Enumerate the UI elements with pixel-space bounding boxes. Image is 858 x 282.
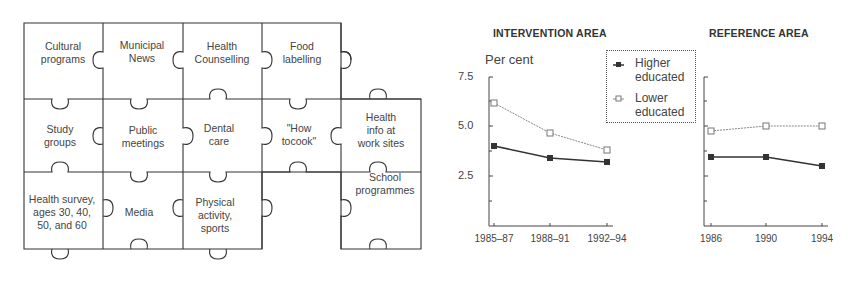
x-tick: 1990 <box>755 233 777 244</box>
y-tick: 7.5 <box>458 70 473 82</box>
piece-label-line: programs <box>41 53 85 66</box>
piece-label-line: "How <box>282 122 317 135</box>
piece-how-to-cook: "How tocook" <box>282 122 317 148</box>
x-tick: 1994 <box>811 233 833 244</box>
x-tick: 1992–94 <box>588 233 627 244</box>
piece-label-line: tocook" <box>282 135 317 148</box>
reference-lower-line <box>711 126 822 131</box>
legend-label: Lower <box>635 91 684 105</box>
intervention-axes <box>489 77 613 226</box>
piece-label-line: activity, <box>195 209 234 222</box>
piece-label-line: 50, and 60 <box>29 219 95 232</box>
piece-food-labelling: Food labelling <box>283 40 322 66</box>
x-tick: 1985–87 <box>475 233 514 244</box>
y-tick: 5.0 <box>458 119 473 131</box>
piece-label-line: care <box>204 135 234 148</box>
piece-label-line: Cultural <box>41 40 85 53</box>
y-axis-label: Per cent <box>485 52 533 67</box>
x-tick: 1988–91 <box>531 233 570 244</box>
piece-media: Media <box>125 206 154 219</box>
piece-label-line: Study <box>44 123 76 136</box>
piece-municipal-news: Municipal News <box>120 39 164 65</box>
piece-study-groups: Study groups <box>44 123 76 149</box>
intervention-lower-line <box>494 103 607 150</box>
piece-label-line: programmes <box>356 184 415 197</box>
piece-label-line: ages 30, 40, <box>29 206 95 219</box>
piece-physical-activity: Physical activity, sports <box>195 196 234 235</box>
piece-public-meetings: Public meetings <box>122 124 165 150</box>
piece-label-line: Health <box>195 40 250 53</box>
piece-label-line: News <box>120 52 164 65</box>
legend-label: Higher <box>635 56 684 70</box>
legend-label: educated <box>635 70 684 84</box>
piece-cultural-programs: Cultural programs <box>41 40 85 66</box>
piece-label-line: Counselling <box>195 53 250 66</box>
reference-chart-title: REFERENCE AREA <box>709 27 809 39</box>
piece-label-line: Media <box>125 206 154 219</box>
piece-dental-care: Dental care <box>204 122 234 148</box>
piece-health-info-work-sites: Health info at work sites <box>358 111 405 150</box>
reference-higher-line <box>711 157 822 166</box>
y-tick: 2.5 <box>458 169 473 181</box>
piece-health-counselling: Health Counselling <box>195 40 250 66</box>
piece-label-line: Municipal <box>120 39 164 52</box>
piece-label-line: labelling <box>283 53 322 66</box>
reference-axes <box>704 77 828 226</box>
piece-label-line: sports <box>195 222 234 235</box>
piece-label-line: Dental <box>204 122 234 135</box>
intervention-chart-title: INTERVENTION AREA <box>493 27 607 39</box>
piece-label-line: Public <box>122 124 165 137</box>
legend-label: educated <box>635 105 684 119</box>
piece-label-line: Physical <box>195 196 234 209</box>
piece-label-line: groups <box>44 136 76 149</box>
piece-label-line: info at <box>358 124 405 137</box>
puzzle-diagram: Cultural programs Municipal News Health … <box>0 0 440 282</box>
chart-legend: Higher educated Lower educated <box>606 50 696 123</box>
x-tick: 1986 <box>700 233 722 244</box>
piece-label-line: Health survey, <box>29 193 95 206</box>
piece-label-line: meetings <box>122 137 165 150</box>
legend-higher: Higher educated <box>635 56 684 84</box>
piece-health-survey: Health survey, ages 30, 40, 50, and 60 <box>29 193 95 232</box>
piece-label-line: School <box>356 171 415 184</box>
intervention-higher-line <box>494 146 607 162</box>
piece-label-line: work sites <box>358 137 405 150</box>
piece-label-line: Health <box>358 111 405 124</box>
piece-label-line: Food <box>283 40 322 53</box>
piece-school-programmes: School programmes <box>356 171 415 197</box>
legend-lower: Lower educated <box>635 91 684 119</box>
